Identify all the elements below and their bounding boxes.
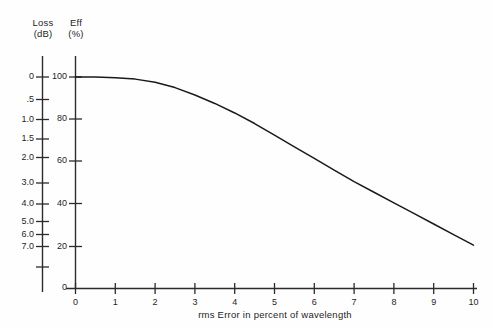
x-tick-label-10: 10 [464,297,484,307]
x-axis-label: rms Error in percent of wavelength [145,309,405,320]
x-tick-label-7: 7 [344,297,364,307]
efficiency-curve [76,77,474,245]
x-tick-label-1: 1 [105,297,125,307]
eff-tick-label-60: 60 [42,155,67,165]
loss-axis-title-line1: Loss [33,17,54,28]
x-tick-label-2: 2 [145,297,165,307]
x-tick-label-0: 0 [66,297,86,307]
x-tick-label-5: 5 [265,297,285,307]
eff-tick-label-40: 40 [42,198,67,208]
loss-tick-label-5-0: 5.0 [6,216,34,226]
eff-axis-title: Eff (%) [56,17,96,39]
loss-tick-label-0-5: .5 [6,94,34,104]
loss-tick-label-0: 0 [6,71,34,81]
plot-area [0,0,493,328]
eff-tick-label-20: 20 [42,241,67,251]
loss-tick-label-3-0: 3.0 [6,177,34,187]
eff-axis-title-line2: (%) [56,28,96,39]
loss-tick-label-4-0: 4.0 [6,198,34,208]
eff-tick-label-100: 100 [42,71,67,81]
loss-tick-label-1-5: 1.5 [6,133,34,143]
eff-axis-title-line1: Eff [70,17,82,28]
loss-tick-label-6-0: 6.0 [6,229,34,239]
loss-tick-label-7-0: 7.0 [6,241,34,251]
loss-tick-label-2-0: 2.0 [6,152,34,162]
x-tick-label-3: 3 [185,297,205,307]
eff-tick-label-0: 0 [42,282,67,292]
chart-figure: Loss (dB) Eff (%) 0 .5 1.0 1.5 2.0 3.0 4… [0,0,493,328]
x-tick-label-6: 6 [304,297,324,307]
eff-tick-label-80: 80 [42,113,67,123]
x-tick-label-4: 4 [225,297,245,307]
loss-tick-label-1-0: 1.0 [6,114,34,124]
x-tick-label-9: 9 [424,297,444,307]
x-tick-label-8: 8 [384,297,404,307]
